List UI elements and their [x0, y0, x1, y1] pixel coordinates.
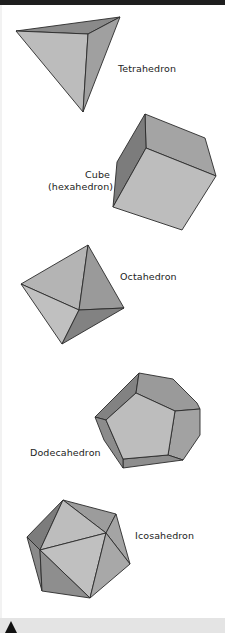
cube-label: Cube — [48, 169, 110, 181]
cube-shape — [113, 114, 216, 230]
octahedron-shape — [21, 245, 124, 344]
tetrahedron-label: Tetrahedron — [118, 63, 176, 75]
dodecahedron-shape — [95, 373, 200, 468]
icosahedron-shape — [27, 500, 130, 598]
dodecahedron-label: Dodecahedron — [30, 447, 101, 459]
cube-label-secondary: (hexahedron) — [48, 181, 110, 193]
triangle-up-icon — [5, 621, 17, 633]
tetrahedron-shape — [16, 17, 120, 112]
octahedron-label: Octahedron — [120, 271, 177, 283]
icosahedron-label: Icosahedron — [135, 530, 194, 542]
footer-bar — [0, 618, 225, 633]
